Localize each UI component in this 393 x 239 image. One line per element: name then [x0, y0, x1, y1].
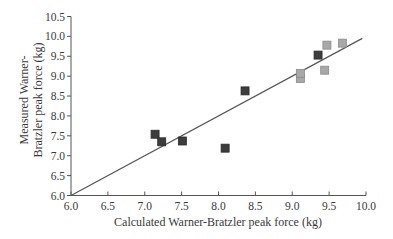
- y-axis-title: Measured Warner- Bratzler peak force (kg…: [17, 43, 45, 158]
- svg-text:Measured Warner-: Measured Warner-: [17, 56, 31, 145]
- y-tick-label: 7.5: [51, 130, 66, 142]
- data-point: [323, 41, 331, 49]
- x-tick-label: 6.5: [101, 200, 116, 212]
- y-tick-label: 10.0: [45, 30, 65, 42]
- x-tick-label: 9.0: [285, 200, 300, 212]
- x-axis: 6.06.57.07.58.08.59.09.510.0: [64, 192, 377, 212]
- y-tick-label: 8.5: [51, 90, 66, 102]
- data-point: [296, 69, 304, 77]
- y-tick-label: 9.0: [51, 70, 66, 82]
- x-axis-title: Calculated Warner-Bratzler peak force (k…: [114, 215, 322, 229]
- data-point: [221, 144, 229, 152]
- data-point: [338, 39, 346, 47]
- y-tick-label: 10.5: [45, 11, 65, 23]
- reference-line: [71, 38, 362, 195]
- data-point: [158, 138, 166, 146]
- data-point: [178, 137, 186, 145]
- y-tick-label: 6.5: [51, 170, 66, 182]
- data-point: [151, 130, 159, 138]
- y-axis: 6.06.57.07.58.08.59.09.510.010.5: [45, 11, 71, 202]
- x-tick-label: 9.5: [322, 200, 337, 212]
- x-tick-label: 8.5: [248, 200, 263, 212]
- x-tick-label: 8.0: [211, 200, 226, 212]
- x-tick-label: 10.0: [356, 200, 376, 212]
- x-tick-label: 7.5: [174, 200, 189, 212]
- y-tick-label: 9.5: [51, 50, 66, 62]
- svg-text:Bratzler peak force (kg): Bratzler peak force (kg): [31, 43, 45, 158]
- data-point: [314, 51, 322, 59]
- x-tick-label: 6.0: [64, 200, 79, 212]
- data-points: [151, 39, 346, 152]
- scatter-chart: 6.06.57.07.58.08.59.09.510.010.5 6.06.57…: [0, 0, 393, 239]
- y-tick-label: 8.0: [51, 110, 66, 122]
- data-point: [241, 87, 249, 95]
- data-point: [321, 66, 329, 74]
- y-tick-label: 7.0: [51, 150, 66, 162]
- x-tick-label: 7.0: [138, 200, 153, 212]
